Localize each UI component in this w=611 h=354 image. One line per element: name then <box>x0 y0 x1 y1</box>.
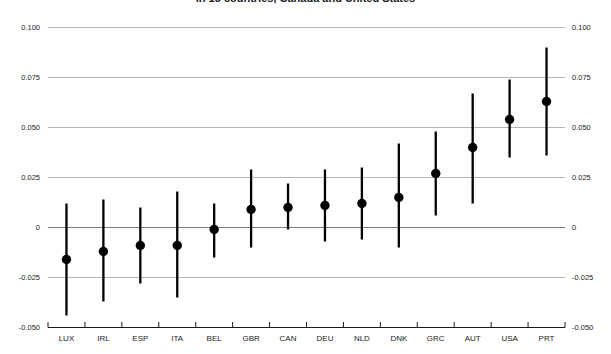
x-category-label: ESP <box>132 334 148 343</box>
x-category-label: CAN <box>280 334 297 343</box>
x-category-label: DNK <box>390 334 408 343</box>
y-tick-label-left: 0.075 <box>21 73 40 82</box>
y-tick-label-left: 0 <box>36 223 40 232</box>
estimate-dot <box>173 241 182 250</box>
x-category-label: ITA <box>171 334 184 343</box>
x-category-label: GRC <box>427 334 445 343</box>
y-tick-label-left: 0.050 <box>21 123 40 132</box>
y-tick-label-right: -0.025 <box>572 273 593 282</box>
estimate-dot <box>246 205 255 214</box>
y-tick-label-right: 0 <box>572 223 576 232</box>
y-tick-label-right: 0.100 <box>572 23 591 32</box>
estimate-dot <box>209 225 218 234</box>
x-category-label: DEU <box>317 334 334 343</box>
x-category-label: IRL <box>97 334 110 343</box>
chart-figure: in 15 countries, Canada and United State… <box>0 0 611 354</box>
y-tick-label-left: -0.025 <box>19 273 40 282</box>
y-tick-label-right: 0.075 <box>572 73 591 82</box>
y-tick-label-right: -0.050 <box>572 323 593 332</box>
estimate-dot <box>505 115 514 124</box>
estimate-dot <box>283 203 292 212</box>
x-category-label: BEL <box>207 334 223 343</box>
estimate-dot <box>136 241 145 250</box>
x-category-label: NLD <box>354 334 370 343</box>
estimate-dot <box>320 201 329 210</box>
estimate-dot <box>99 247 108 256</box>
y-tick-label-left: 0.025 <box>21 173 40 182</box>
y-tick-label-left: -0.050 <box>19 323 40 332</box>
estimate-dot <box>394 193 403 202</box>
estimate-dot <box>357 199 366 208</box>
chart-canvas: 0.1000.1000.0750.0750.0500.0500.0250.025… <box>0 0 611 354</box>
estimate-dot <box>542 97 551 106</box>
estimate-dot <box>62 255 71 264</box>
estimate-dot <box>468 143 477 152</box>
x-category-label: USA <box>501 334 518 343</box>
y-tick-label-left: 0.100 <box>21 23 40 32</box>
estimate-dot <box>431 169 440 178</box>
x-category-label: PRT <box>539 334 555 343</box>
y-tick-label-right: 0.025 <box>572 173 591 182</box>
x-category-label: LUX <box>59 334 75 343</box>
x-category-label: GBR <box>242 334 260 343</box>
y-tick-label-right: 0.050 <box>572 123 591 132</box>
x-category-label: AUT <box>465 334 481 343</box>
